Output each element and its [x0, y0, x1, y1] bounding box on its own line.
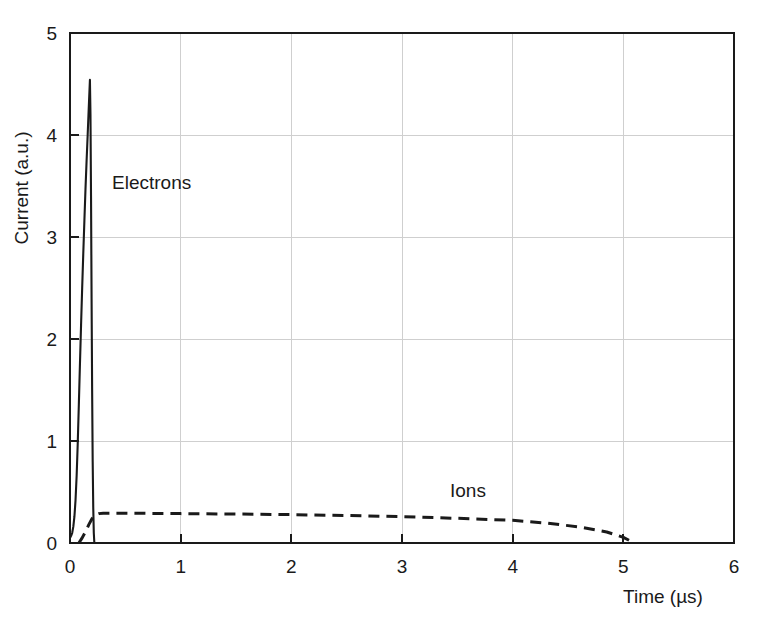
tick-label-y: 3 [46, 227, 57, 248]
chart-background [0, 0, 758, 627]
tick-label-y: 0 [46, 533, 57, 554]
tick-label-x: 3 [397, 556, 408, 577]
tick-label-y: 2 [46, 329, 57, 350]
tick-label-y: 5 [46, 23, 57, 44]
x-axis-title: Time (µs) [623, 586, 703, 607]
current-vs-time-chart: 0123456 012345 Time (µs) Current (a.u.) … [0, 0, 758, 627]
y-axis-title: Current (a.u.) [11, 132, 32, 245]
tick-label-x: 1 [175, 556, 186, 577]
tick-label-x: 6 [729, 556, 740, 577]
annotation-ions: Ions [450, 480, 486, 501]
tick-label-x: 0 [65, 556, 76, 577]
tick-label-y: 1 [46, 431, 57, 452]
tick-label-y: 4 [46, 125, 57, 146]
tick-label-x: 4 [507, 556, 518, 577]
tick-label-x: 2 [286, 556, 297, 577]
tick-label-x: 5 [618, 556, 629, 577]
annotation-electrons: Electrons [112, 172, 191, 193]
